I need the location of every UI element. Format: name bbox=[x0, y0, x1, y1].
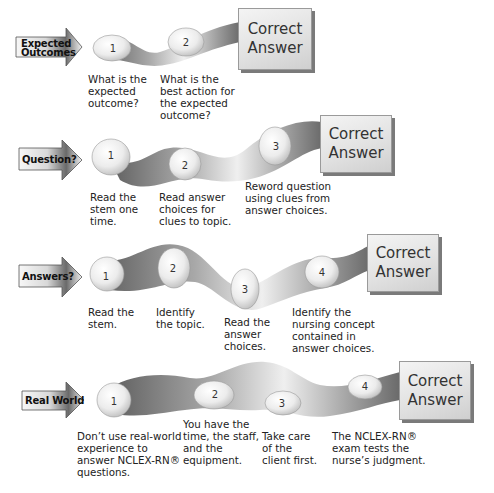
correct-answer-line1: Correct bbox=[408, 372, 463, 391]
step-number: 3 bbox=[279, 398, 285, 409]
step-caption: What is the expected outcome? bbox=[88, 73, 147, 109]
step-number: 4 bbox=[362, 381, 368, 392]
step-caption: Identify the topic. bbox=[156, 306, 205, 330]
step-caption: Don’t use real-world experience to answe… bbox=[77, 430, 181, 478]
correct-answer-line1: Correct bbox=[329, 125, 384, 144]
correct-answer-box: Correct Answer bbox=[399, 361, 471, 420]
step-caption: Reword question using clues from answer … bbox=[245, 180, 331, 216]
correct-answer-line2: Answer bbox=[247, 39, 302, 58]
arrow-label-question: Question? bbox=[22, 155, 77, 165]
correct-answer-box: Correct Answer bbox=[367, 234, 439, 292]
correct-answer-line2: Answer bbox=[375, 263, 430, 282]
step-caption: What is the best action for the expected… bbox=[160, 73, 235, 121]
step-caption: Read the stem. bbox=[88, 306, 134, 330]
step-caption: The NCLEX-RN® exam tests the nurse’s jud… bbox=[332, 430, 426, 466]
step-caption: You have the time, the staff, and the eq… bbox=[183, 418, 259, 466]
step-number: 3 bbox=[273, 141, 279, 152]
step-caption: Identify the nursing concept contained i… bbox=[292, 306, 375, 354]
step-number: 3 bbox=[242, 284, 248, 295]
arrow-label-real-world: Real World bbox=[25, 396, 84, 406]
step-number: 1 bbox=[103, 271, 109, 282]
correct-answer-box: Correct Answer bbox=[320, 115, 392, 173]
arrow-label-answers: Answers? bbox=[22, 272, 74, 282]
correct-answer-line1: Correct bbox=[376, 244, 431, 263]
step-number: 2 bbox=[170, 263, 176, 274]
step-caption: Read the answer choices. bbox=[224, 316, 270, 352]
test-taking-strategy-diagram: Expected Outcomes 1 2 Correct Answer Wha… bbox=[0, 0, 494, 493]
step-number: 1 bbox=[110, 43, 116, 54]
step-number: 1 bbox=[111, 396, 117, 407]
correct-answer-line1: Correct bbox=[248, 20, 303, 39]
step-number: 2 bbox=[212, 389, 218, 400]
step-number: 2 bbox=[183, 37, 189, 48]
step-caption: Take care of the client first. bbox=[262, 430, 317, 466]
step-caption: Read the stem one time. bbox=[90, 191, 138, 227]
step-number: 4 bbox=[319, 267, 325, 278]
ribbon-2 bbox=[110, 121, 322, 186]
correct-answer-line2: Answer bbox=[328, 144, 383, 163]
correct-answer-line2: Answer bbox=[407, 391, 462, 410]
step-number: 2 bbox=[182, 160, 188, 171]
arrow-label-outcomes: Outcomes bbox=[21, 48, 76, 58]
correct-answer-box: Correct Answer bbox=[238, 8, 312, 70]
step-caption: Read answer choices for clues to topic. bbox=[159, 191, 231, 227]
step-number: 1 bbox=[108, 150, 114, 161]
